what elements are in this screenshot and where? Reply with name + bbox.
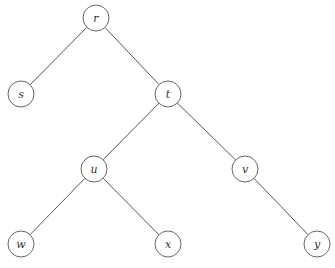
node-label: u bbox=[90, 163, 97, 176]
tree-diagram: rstuvwxy bbox=[0, 0, 335, 268]
tree-node-w: w bbox=[8, 231, 34, 257]
tree-edges bbox=[30, 27, 308, 234]
tree-nodes: rstuvwxy bbox=[8, 5, 330, 257]
tree-node-s: s bbox=[8, 81, 34, 107]
edge-u-x bbox=[103, 178, 159, 234]
edge-r-t bbox=[105, 27, 159, 84]
tree-node-t: t bbox=[155, 81, 181, 107]
node-label: t bbox=[166, 88, 171, 101]
edge-t-u bbox=[103, 103, 159, 159]
edge-u-w bbox=[30, 178, 85, 234]
edge-t-v bbox=[177, 103, 235, 160]
node-label: w bbox=[16, 238, 26, 251]
tree-node-u: u bbox=[81, 156, 107, 182]
node-label: x bbox=[165, 238, 172, 251]
tree-node-x: x bbox=[155, 231, 181, 257]
tree-node-v: v bbox=[232, 156, 258, 182]
edge-v-y bbox=[254, 178, 308, 234]
node-label: s bbox=[18, 88, 24, 101]
tree-node-r: r bbox=[83, 5, 109, 31]
node-label: v bbox=[242, 163, 249, 176]
node-label: r bbox=[93, 12, 99, 25]
edge-r-s bbox=[30, 27, 87, 84]
tree-node-y: y bbox=[304, 231, 330, 257]
node-label: y bbox=[313, 238, 321, 251]
